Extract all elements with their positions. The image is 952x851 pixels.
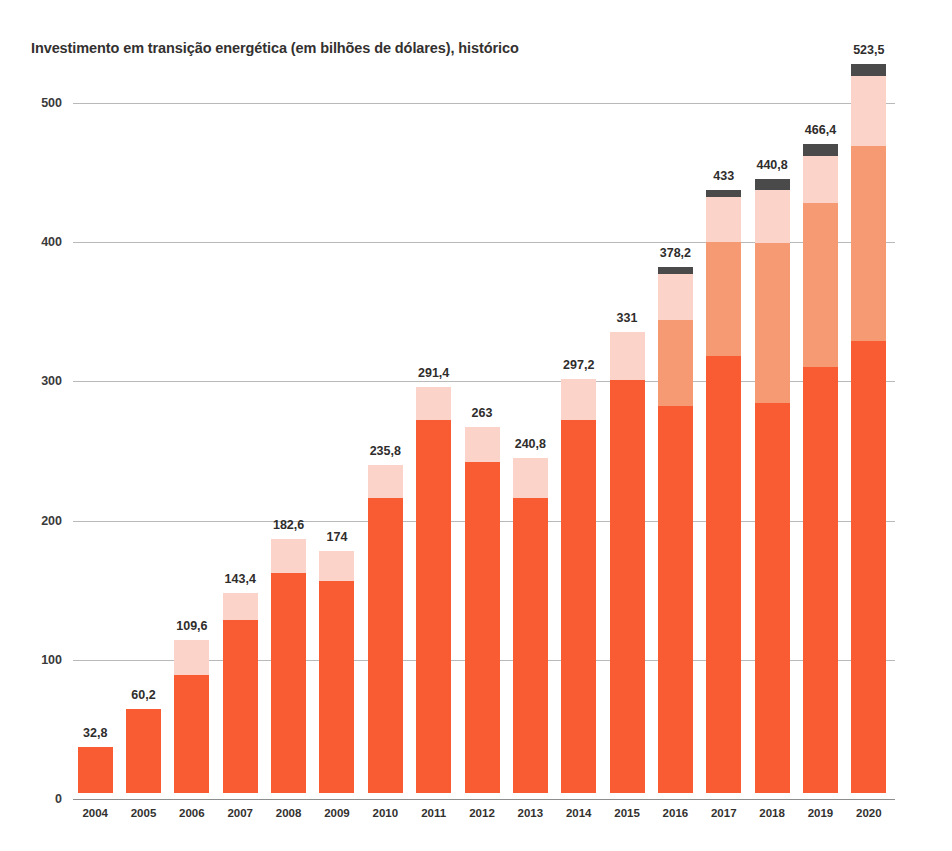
- bar-segment-segmento-1-laranja[interactable]: [319, 581, 354, 793]
- bar-group[interactable]: 182,62008: [271, 90, 306, 793]
- bar-segment-segmento-1-laranja[interactable]: [126, 709, 161, 793]
- bar-segment-segmento-2-salmao[interactable]: [803, 203, 838, 367]
- bar-stack[interactable]: [755, 179, 790, 793]
- bar-segment-segmento-1-laranja[interactable]: [658, 406, 693, 793]
- bar-segment-segmento-3-rosa-claro[interactable]: [561, 379, 596, 420]
- bar-segment-segmento-1-laranja[interactable]: [755, 403, 790, 793]
- x-axis-tick-label: 2010: [372, 807, 398, 819]
- bar-value-label: 466,4: [805, 123, 836, 137]
- bar-group[interactable]: 466,42019: [803, 90, 838, 793]
- bar-value-label: 174: [327, 530, 348, 544]
- bar-stack[interactable]: [465, 427, 500, 793]
- bar-segment-segmento-1-laranja[interactable]: [174, 675, 209, 793]
- bar-segment-segmento-1-laranja[interactable]: [803, 367, 838, 793]
- bar-stack[interactable]: [368, 465, 403, 793]
- bar-segment-segmento-2-salmao[interactable]: [755, 243, 790, 403]
- bar-segment-segmento-1-laranja[interactable]: [610, 380, 645, 793]
- x-axis-tick-label: 2009: [324, 807, 350, 819]
- bar-segment-segmento-4-cinza-escuro[interactable]: [803, 144, 838, 156]
- x-axis-tick-label: 2020: [856, 807, 882, 819]
- bar-segment-segmento-1-laranja[interactable]: [706, 356, 741, 793]
- bar-segment-segmento-3-rosa-claro[interactable]: [319, 551, 354, 582]
- x-axis-tick-label: 2012: [469, 807, 495, 819]
- bar-stack[interactable]: [851, 64, 886, 793]
- chart-title: Investimento em transição energética (em…: [31, 40, 519, 56]
- bar-stack[interactable]: [126, 709, 161, 793]
- bar-stack[interactable]: [319, 551, 354, 793]
- bar-stack[interactable]: [271, 539, 306, 793]
- bar-segment-segmento-3-rosa-claro[interactable]: [755, 190, 790, 243]
- bar-segment-segmento-1-laranja[interactable]: [465, 462, 500, 793]
- bar-segment-segmento-3-rosa-claro[interactable]: [174, 640, 209, 674]
- bar-value-label: 263: [472, 406, 493, 420]
- bar-segment-segmento-3-rosa-claro[interactable]: [368, 465, 403, 498]
- y-axis-tick-label: 400: [41, 235, 62, 249]
- x-axis-tick-label: 2015: [614, 807, 640, 819]
- bar-segment-segmento-3-rosa-claro[interactable]: [610, 332, 645, 379]
- bar-group[interactable]: 291,42011: [416, 90, 451, 793]
- bar-group[interactable]: 523,52020: [851, 90, 886, 793]
- bar-segment-segmento-3-rosa-claro[interactable]: [706, 197, 741, 242]
- bar-group[interactable]: 440,82018: [755, 90, 790, 793]
- bar-value-label: 433: [713, 169, 734, 183]
- bar-segment-segmento-4-cinza-escuro[interactable]: [706, 190, 741, 197]
- bar-segment-segmento-1-laranja[interactable]: [271, 573, 306, 793]
- bar-segment-segmento-3-rosa-claro[interactable]: [416, 387, 451, 420]
- bar-stack[interactable]: [223, 593, 258, 793]
- bar-value-label: 291,4: [418, 366, 449, 380]
- bar-segment-segmento-1-laranja[interactable]: [416, 420, 451, 793]
- bar-group[interactable]: 235,82010: [368, 90, 403, 793]
- x-axis-tick-label: 2004: [82, 807, 108, 819]
- bar-stack[interactable]: [803, 144, 838, 793]
- bar-group[interactable]: 4332017: [706, 90, 741, 793]
- bar-group[interactable]: 3312015: [610, 90, 645, 793]
- bar-segment-segmento-1-laranja[interactable]: [851, 341, 886, 793]
- bar-group[interactable]: 240,82013: [513, 90, 548, 793]
- bar-stack[interactable]: [706, 190, 741, 793]
- bar-group[interactable]: 143,42007: [223, 90, 258, 793]
- bar-group[interactable]: 378,22016: [658, 90, 693, 793]
- bar-group[interactable]: 297,22014: [561, 90, 596, 793]
- bar-group[interactable]: 2632012: [465, 90, 500, 793]
- bar-stack[interactable]: [416, 387, 451, 793]
- bar-segment-segmento-2-salmao[interactable]: [851, 146, 886, 341]
- bar-group[interactable]: 109,62006: [174, 90, 209, 793]
- x-axis-tick-label: 2019: [808, 807, 834, 819]
- bar-segment-segmento-1-laranja[interactable]: [513, 498, 548, 793]
- x-axis-tick-label: 2016: [663, 807, 689, 819]
- bar-segment-segmento-1-laranja[interactable]: [368, 498, 403, 793]
- bar-stack[interactable]: [610, 332, 645, 793]
- bar-value-label: 32,8: [83, 726, 107, 740]
- x-axis-tick-label: 2007: [227, 807, 253, 819]
- bar-stack[interactable]: [78, 747, 113, 793]
- bar-value-label: 297,2: [563, 358, 594, 372]
- bar-segment-segmento-4-cinza-escuro[interactable]: [755, 179, 790, 190]
- energy-transition-investment-chart: Investimento em transição energética (em…: [0, 0, 952, 851]
- bar-group[interactable]: 32,82004: [78, 90, 113, 793]
- bar-segment-segmento-3-rosa-claro[interactable]: [803, 156, 838, 203]
- bar-stack[interactable]: [513, 458, 548, 793]
- bar-stack[interactable]: [561, 379, 596, 793]
- bar-group[interactable]: 1742009: [319, 90, 354, 793]
- bar-segment-segmento-3-rosa-claro[interactable]: [223, 593, 258, 620]
- y-axis-tick-label: 500: [41, 96, 62, 110]
- bar-segment-segmento-2-salmao[interactable]: [658, 320, 693, 406]
- bar-segment-segmento-4-cinza-escuro[interactable]: [658, 267, 693, 274]
- bar-value-label: 109,6: [176, 619, 207, 633]
- bar-value-label: 60,2: [131, 688, 155, 702]
- bar-group[interactable]: 60,22005: [126, 90, 161, 793]
- bar-segment-segmento-3-rosa-claro[interactable]: [513, 458, 548, 498]
- bar-segment-segmento-1-laranja[interactable]: [78, 747, 113, 793]
- gridline-0: 0: [73, 799, 895, 800]
- bar-segment-segmento-1-laranja[interactable]: [561, 420, 596, 793]
- bar-segment-segmento-4-cinza-escuro[interactable]: [851, 64, 886, 76]
- bar-segment-segmento-3-rosa-claro[interactable]: [271, 539, 306, 573]
- bar-value-label: 331: [617, 311, 638, 325]
- bar-segment-segmento-1-laranja[interactable]: [223, 620, 258, 793]
- bar-segment-segmento-3-rosa-claro[interactable]: [851, 76, 886, 146]
- bar-stack[interactable]: [174, 640, 209, 793]
- bar-segment-segmento-3-rosa-claro[interactable]: [465, 427, 500, 462]
- bar-stack[interactable]: [658, 267, 693, 793]
- bar-segment-segmento-2-salmao[interactable]: [706, 242, 741, 356]
- bar-segment-segmento-3-rosa-claro[interactable]: [658, 274, 693, 320]
